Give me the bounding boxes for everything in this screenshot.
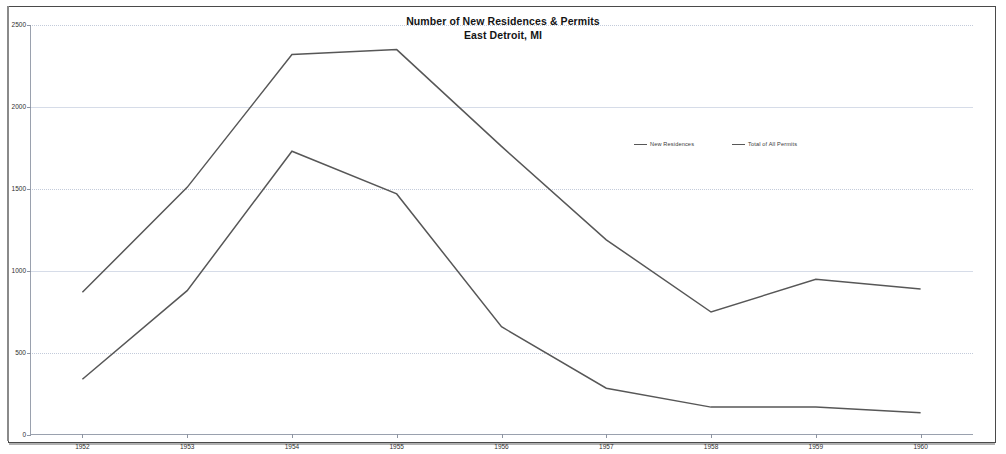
x-axis-label-1960: 1960 [913,444,927,451]
x-axis-label-1952: 1952 [75,444,89,451]
x-axis-label-1956: 1956 [494,444,508,451]
y-tick-mark-0 [27,435,31,436]
x-axis-label-1958: 1958 [704,444,718,451]
y-axis-label-500: 500 [4,350,26,357]
x-axis-label-1957: 1957 [599,444,613,451]
y-axis-label-2500: 2500 [4,22,26,29]
plot-area: 05001000150020002500 1952195319541955195… [30,25,973,435]
legend-line-swatch [732,144,745,145]
chart-figure: Number of New Residences & Permits East … [0,0,1006,454]
y-axis-label-0: 0 [4,432,26,439]
legend-label: New Residences [650,141,694,147]
screenshot-root: Number of New Residences & Permits East … [0,0,1006,454]
x-axis-label-1959: 1959 [809,444,823,451]
series-layer [30,25,973,435]
legend-line-swatch [634,144,647,145]
legend-item-total-of-all-permits[interactable]: Total of All Permits [732,141,797,147]
series-line-new-residences [82,151,920,413]
legend-label: Total of All Permits [748,141,797,147]
y-axis-label-1500: 1500 [4,186,26,193]
series-line-total-of-all-permits [82,50,920,312]
y-axis-label-2000: 2000 [4,104,26,111]
x-axis-label-1954: 1954 [285,444,299,451]
x-axis-label-1955: 1955 [389,444,403,451]
legend-item-new-residences[interactable]: New Residences [634,141,694,147]
x-axis-label-1953: 1953 [180,444,194,451]
y-axis-label-1000: 1000 [4,268,26,275]
chart-legend: New ResidencesTotal of All Permits [634,141,797,147]
